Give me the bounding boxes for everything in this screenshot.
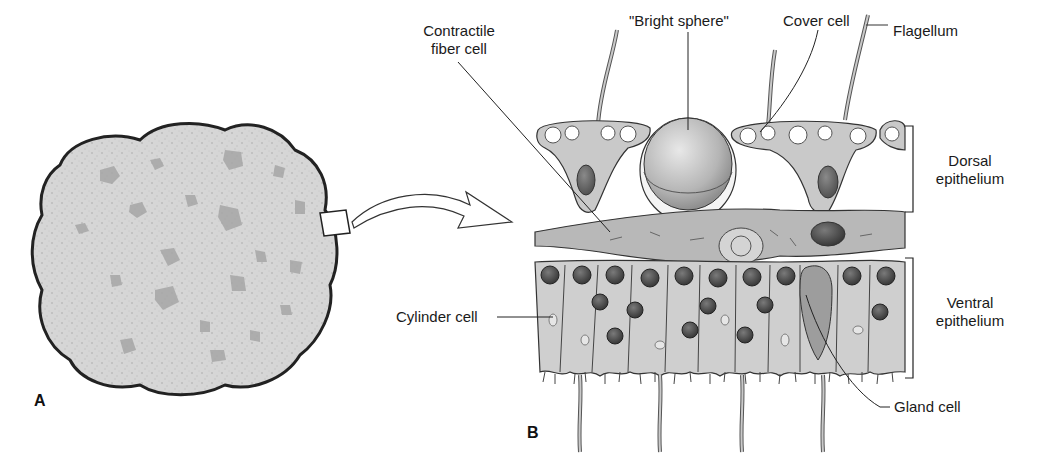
label-dorsal-line2: epithelium [922, 170, 1018, 188]
flagellum-strands [598, 15, 868, 125]
label-ventral-line2: epithelium [922, 312, 1018, 330]
ventral-flagella [579, 375, 823, 452]
label-contractile-fiber-cell: Contractile fiber cell [414, 22, 504, 58]
panel-b-letter: B [527, 424, 539, 442]
label-contractile-line2: fiber cell [414, 40, 504, 58]
label-ventral-epithelium: Ventral epithelium [922, 294, 1018, 330]
label-dorsal-epithelium: Dorsal epithelium [922, 152, 1018, 188]
ventral-epithelium [535, 260, 905, 384]
figure-canvas: A B Contractile fiber cell "Bright spher… [0, 0, 1046, 455]
panel-a-organism [32, 123, 350, 394]
label-contractile-line1: Contractile [414, 22, 504, 40]
label-ventral-line1: Ventral [922, 294, 1018, 312]
label-bright-sphere: "Bright sphere" [629, 12, 729, 30]
label-gland-cell: Gland cell [894, 398, 961, 416]
zoom-arrow-icon [352, 192, 512, 228]
label-flagellum: Flagellum [893, 22, 958, 40]
panel-b-cross-section [458, 15, 913, 452]
panel-a-letter: A [34, 392, 46, 410]
label-cylinder-cell: Cylinder cell [396, 308, 478, 326]
label-dorsal-line1: Dorsal [922, 152, 1018, 170]
label-cover-cell: Cover cell [783, 12, 850, 30]
brackets [905, 126, 913, 378]
bright-sphere [640, 118, 736, 222]
contractile-fiber-layer [535, 209, 905, 264]
